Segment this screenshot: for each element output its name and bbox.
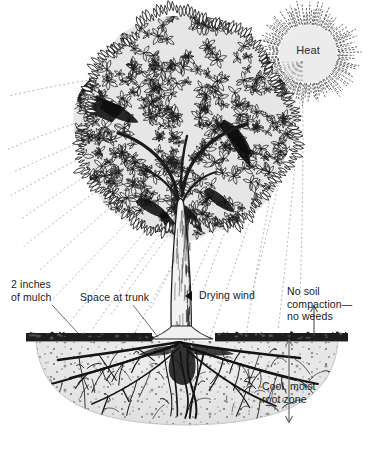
tree-canopy: [73, 1, 305, 242]
callout-leaders: [52, 305, 158, 337]
leader-mulch: [52, 305, 78, 333]
no-soil-compaction-label: No soil compaction— no weeds: [287, 285, 352, 323]
heat-label: Heat: [285, 44, 331, 57]
mulching-illustration: [0, 0, 373, 455]
root-zone-label: Cool, moist root zone: [262, 380, 316, 405]
diagram-canvas: Heat 2 inches of mulch Space at trunk Dr…: [0, 0, 373, 455]
mulch-label: 2 inches of mulch: [11, 278, 51, 303]
leader-space-at-trunk: [133, 305, 158, 337]
space-at-trunk-label: Space at trunk: [80, 291, 149, 304]
left-triangle-icon: [185, 291, 192, 301]
drying-wind-label: Drying wind: [199, 289, 255, 302]
